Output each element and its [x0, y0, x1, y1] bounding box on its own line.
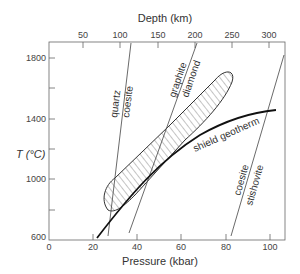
coesite-stishovite-line: [231, 55, 284, 236]
x-tick-label: 100: [262, 242, 277, 252]
x-axis-title: Pressure (kbar): [122, 255, 198, 267]
top-axis-labels: 50 100 150 200 250 300: [78, 30, 277, 40]
pressure-temperature-chart: 50 100 150 200 250 300 Depth (km) 0 20 4…: [0, 0, 300, 274]
x-tick-label: 40: [132, 242, 142, 252]
x-tick-label: 20: [88, 242, 98, 252]
coesite-label: coesite: [120, 85, 135, 118]
top-tick-label: 100: [112, 30, 127, 40]
y-tick-label: 1400: [26, 114, 46, 124]
top-tick-label: 250: [224, 30, 239, 40]
left-axis: [49, 58, 55, 210]
x-tick-label: 80: [221, 242, 231, 252]
top-tick-label: 200: [187, 30, 202, 40]
y-axis-title: T (°C): [16, 148, 46, 160]
top-tick-label: 300: [261, 30, 276, 40]
bottom-axis-labels: 0 20 40 60 80 100: [46, 242, 277, 252]
top-axis-title: Depth (km): [138, 12, 192, 24]
y-tick-label: 600: [31, 232, 46, 242]
top-tick-label: 50: [78, 30, 88, 40]
y-tick-label: 1000: [26, 174, 46, 184]
x-tick-label: 60: [176, 242, 186, 252]
y-tick-label: 1800: [26, 53, 46, 63]
bottom-axis: [93, 234, 270, 240]
top-tick-label: 150: [150, 30, 165, 40]
x-tick-label: 0: [46, 242, 51, 252]
top-axis: [83, 42, 269, 48]
